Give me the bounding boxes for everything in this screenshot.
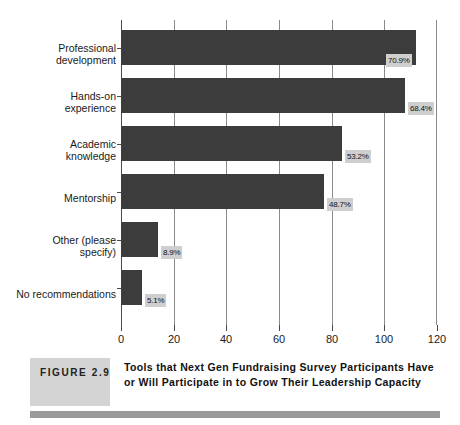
- x-axis-label-80: 80: [326, 333, 338, 345]
- plot-area: 70.9% 68.4% 53.2% 48.7% 8.9% 5.1%: [121, 20, 437, 325]
- x-tick-0: [121, 325, 122, 331]
- bar-mentorship: [121, 174, 324, 209]
- x-tick-80: [332, 325, 333, 331]
- figure-caption: FIGURE 2.9 Tools that Next Gen Fundraisi…: [0, 352, 460, 425]
- data-label-mentorship: 48.7%: [327, 198, 353, 211]
- figure-number: FIGURE 2.9: [40, 367, 110, 378]
- gridline-120: [436, 20, 437, 325]
- bar-professional-development: [121, 30, 416, 65]
- x-tick-40: [226, 325, 227, 331]
- x-axis-label-60: 60: [273, 333, 285, 345]
- gridline-60: [279, 20, 280, 325]
- y-axis-labels: Professional development Hands-on experi…: [0, 20, 116, 325]
- figure-number-box: FIGURE 2.9: [30, 358, 110, 406]
- bar-hands-on-experience: [121, 78, 405, 113]
- gridline-40: [226, 20, 227, 325]
- gridline-100: [384, 20, 385, 325]
- x-axis-label-40: 40: [220, 333, 232, 345]
- x-axis-label-100: 100: [375, 333, 393, 345]
- data-label-other-please-specify: 8.9%: [161, 246, 182, 259]
- gridline-20: [174, 20, 175, 325]
- x-axis-label-0: 0: [118, 333, 124, 345]
- data-label-academic-knowledge: 53.2%: [345, 150, 371, 163]
- y-axis-label-no-recommendations: No recommendations: [16, 288, 116, 300]
- bar-other-please-specify: [121, 222, 158, 257]
- bar-academic-knowledge: [121, 126, 342, 161]
- x-axis-label-120: 120: [428, 333, 446, 345]
- x-tick-20: [174, 325, 175, 331]
- figure-caption-text: Tools that Next Gen Fundraising Survey P…: [124, 360, 434, 389]
- y-axis-label-mentorship: Mentorship: [64, 192, 116, 204]
- data-label-professional-development: 70.9%: [386, 54, 412, 67]
- y-axis-label-other-please-specify: Other (please specify): [52, 234, 116, 258]
- bar-no-recommendations: [121, 270, 142, 305]
- x-tick-60: [279, 325, 280, 331]
- x-axis-label-20: 20: [168, 333, 180, 345]
- x-tick-100: [384, 325, 385, 331]
- gridline-80: [332, 20, 333, 325]
- y-axis-label-academic-knowledge: Academic knowledge: [66, 138, 116, 162]
- data-label-no-recommendations: 5.1%: [145, 294, 166, 307]
- y-axis-label-hands-on-experience: Hands-on experience: [65, 90, 116, 114]
- figure-chart: Professional development Hands-on experi…: [0, 0, 460, 350]
- data-label-hands-on-experience: 68.4%: [408, 102, 434, 115]
- caption-rule: [30, 411, 440, 418]
- y-axis-label-professional-development: Professional development: [56, 42, 116, 66]
- x-tick-120: [437, 325, 438, 331]
